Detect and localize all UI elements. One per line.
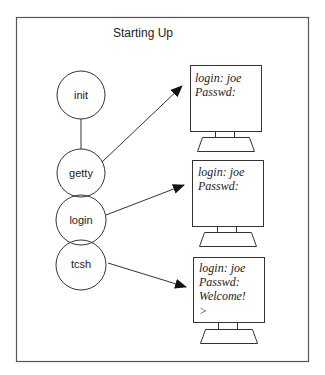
process-tcsh: tcsh bbox=[56, 240, 106, 290]
monitor-neck bbox=[219, 323, 238, 330]
diagram-title: Starting Up bbox=[113, 26, 173, 40]
process-label: login bbox=[69, 214, 92, 226]
monitor-neck bbox=[216, 132, 235, 138]
terminal-line: Passwd: bbox=[194, 85, 236, 99]
process-label: tcsh bbox=[71, 258, 91, 270]
arrow-login-to-terminal-2 bbox=[106, 185, 184, 215]
process-label: init bbox=[74, 89, 88, 101]
process-getty: getty bbox=[57, 149, 105, 197]
terminal-1: login: joe Passwd: bbox=[191, 66, 262, 152]
terminal-line: login: joe bbox=[198, 165, 245, 179]
monitor-neck bbox=[218, 227, 237, 233]
process-init: init bbox=[57, 71, 105, 119]
monitor-base bbox=[198, 138, 255, 152]
terminal-2: login: joe Passwd: bbox=[193, 161, 264, 247]
terminal-line: Welcome! bbox=[199, 289, 246, 303]
arrow-tcsh-to-terminal-3 bbox=[108, 263, 186, 287]
terminal-line: login: joe bbox=[199, 261, 246, 275]
terminal-line: login: joe bbox=[195, 71, 242, 85]
monitor-base bbox=[201, 330, 258, 344]
process-label: getty bbox=[69, 167, 93, 179]
starting-up-diagram: Starting Up init getty login tcsh login:… bbox=[0, 0, 325, 375]
terminal-line: Passwd: bbox=[198, 275, 240, 289]
terminal-line: Passwd: bbox=[197, 179, 239, 193]
arrow-getty-to-terminal-1 bbox=[102, 86, 182, 162]
process-login: login bbox=[56, 195, 106, 245]
terminal-line: > bbox=[199, 304, 207, 318]
terminal-3: login: joe Passwd: Welcome! > bbox=[194, 258, 265, 344]
monitor-base bbox=[200, 233, 257, 247]
